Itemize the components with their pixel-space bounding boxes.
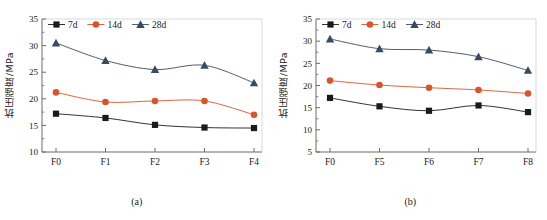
line-chart-a: 101520253035F0F1F2F3F47d14d28d — [18, 10, 266, 178]
data-point-14d — [376, 82, 383, 89]
data-point-7d — [53, 111, 59, 117]
legend-label-28d: 28d — [426, 20, 441, 30]
data-point-28d — [250, 79, 258, 87]
y-tick-label: 10 — [29, 147, 39, 157]
data-point-7d — [326, 95, 332, 101]
x-tick-label: F4 — [249, 157, 259, 167]
y-tick-label: 25 — [303, 59, 313, 69]
data-point-7d — [475, 102, 481, 108]
data-point-7d — [376, 103, 382, 109]
legend-marker-7d — [327, 21, 333, 27]
x-tick-label: F5 — [374, 157, 384, 167]
y-tick-label: 20 — [29, 94, 39, 104]
x-tick-label: F8 — [522, 157, 532, 167]
data-point-7d — [201, 124, 207, 130]
data-point-14d — [251, 111, 258, 118]
data-point-14d — [475, 87, 482, 94]
legend-label-14d: 14d — [107, 20, 122, 30]
legend-label-7d: 7d — [342, 20, 352, 30]
series-line-28d — [56, 43, 254, 83]
data-point-28d — [325, 35, 333, 43]
y-tick-label: 35 — [29, 14, 39, 24]
x-tick-label: F6 — [423, 157, 433, 167]
plot-area-b: 5101520253035F0F5F6F7F87d14d28d — [292, 10, 540, 178]
y-tick-label: 15 — [303, 103, 313, 113]
line-chart-b: 5101520253035F0F5F6F7F87d14d28d — [292, 10, 540, 178]
data-point-28d — [523, 66, 531, 74]
y-tick-label: 20 — [303, 81, 313, 91]
y-tick-label: 35 — [303, 14, 313, 24]
x-tick-label: F7 — [473, 157, 483, 167]
data-point-7d — [152, 122, 158, 128]
data-point-28d — [52, 39, 60, 47]
legend-label-7d: 7d — [68, 20, 78, 30]
panel-caption-a: (a) — [0, 196, 274, 207]
series-line-28d — [330, 39, 528, 70]
data-point-14d — [53, 89, 60, 96]
data-point-14d — [425, 84, 432, 91]
y-tick-label: 10 — [303, 125, 313, 135]
panel-caption-b: (b) — [274, 196, 547, 207]
y-tick-label: 25 — [29, 67, 39, 77]
data-point-7d — [102, 115, 108, 121]
data-point-14d — [201, 98, 208, 105]
y-axis-title-b: 抗压强度/MPa — [276, 0, 292, 170]
legend-marker-14d — [93, 21, 100, 28]
x-tick-label: F1 — [100, 157, 110, 167]
data-point-14d — [326, 77, 333, 84]
data-point-7d — [425, 108, 431, 114]
x-tick-label: F3 — [199, 157, 209, 167]
x-tick-label: F2 — [150, 157, 160, 167]
x-tick-label: F0 — [51, 157, 61, 167]
x-tick-label: F0 — [324, 157, 334, 167]
legend-marker-7d — [53, 21, 59, 27]
data-point-14d — [102, 99, 109, 106]
y-axis-title-label-a: 抗压强度/MPa — [3, 52, 17, 118]
plot-area-a: 101520253035F0F1F2F3F47d14d28d — [18, 10, 266, 178]
chart-panel-a: 抗压强度/MPa 101520253035F0F1F2F3F47d14d28d … — [0, 0, 274, 220]
legend-marker-14d — [366, 21, 373, 28]
data-point-7d — [251, 125, 257, 131]
y-tick-label: 5 — [307, 147, 312, 157]
y-axis-title-label-b: 抗压强度/MPa — [277, 52, 291, 118]
data-point-14d — [152, 98, 159, 105]
y-tick-label: 30 — [29, 41, 39, 51]
y-tick-label: 30 — [303, 36, 313, 46]
figure-compressive-strength: 抗压强度/MPa 101520253035F0F1F2F3F47d14d28d … — [0, 0, 547, 220]
legend-label-14d: 14d — [381, 20, 396, 30]
y-axis-title-a: 抗压强度/MPa — [2, 0, 18, 170]
data-point-7d — [524, 109, 530, 115]
chart-panel-b: 抗压强度/MPa 5101520253035F0F5F6F7F87d14d28d… — [274, 0, 547, 220]
data-point-14d — [524, 90, 531, 97]
legend-label-28d: 28d — [152, 20, 167, 30]
y-tick-label: 15 — [29, 121, 39, 131]
